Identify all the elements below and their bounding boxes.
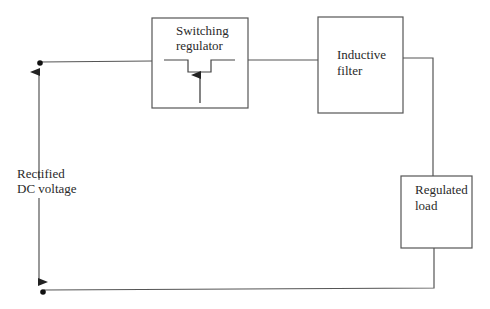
input-voltage-label-1: Rectified <box>17 166 65 181</box>
inductive-filter-label-1: Inductive <box>337 47 386 62</box>
switch-symbol <box>164 60 235 72</box>
switching-regulator-label-1: Switching <box>176 23 229 38</box>
wire-input-to-regulator <box>40 61 152 62</box>
wire-load-return <box>44 248 434 290</box>
inductive-filter-label-2: filter <box>337 63 362 78</box>
switching-regulator-label-2: regulator <box>176 38 223 53</box>
wire-filter-to-load <box>403 58 433 176</box>
bottom-terminal-dot <box>40 289 46 295</box>
regulated-load-label-2: load <box>415 198 437 213</box>
circuit-diagram <box>0 0 490 309</box>
top-terminal-dot <box>37 60 43 66</box>
regulated-load-label-1: Regulated <box>415 182 468 197</box>
input-voltage-label-2: DC voltage <box>17 181 77 196</box>
